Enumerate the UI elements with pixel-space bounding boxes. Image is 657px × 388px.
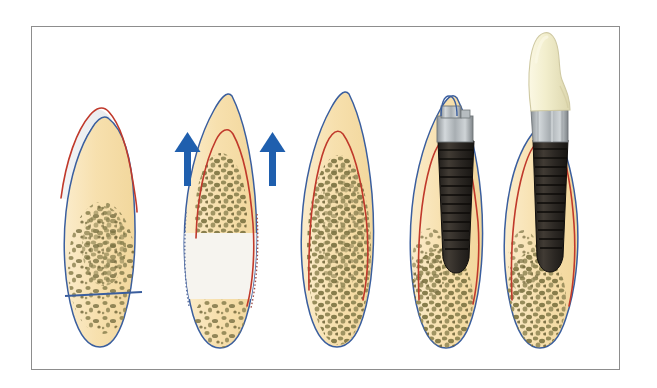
panel-5-abutment [531,110,568,142]
right-elevation-arrow [260,132,286,186]
panel-3-healed-ridge [301,92,373,347]
panel-5-final-restoration [504,33,578,350]
panel-4-implant-fixture [438,141,474,273]
implant-sequence-illustration [0,0,657,388]
panel-5-implant-fixture [533,140,568,272]
panel-1-atrophic-ridge [61,108,142,347]
panel-4-healing-abutment [437,106,473,142]
figure-root: Dental implant placement with bone graft… [0,0,657,388]
panel-5-prosthetic-crown [529,33,570,111]
panel-4-implant-placed [409,96,483,352]
panel-2-bone-augmentation [175,94,286,348]
